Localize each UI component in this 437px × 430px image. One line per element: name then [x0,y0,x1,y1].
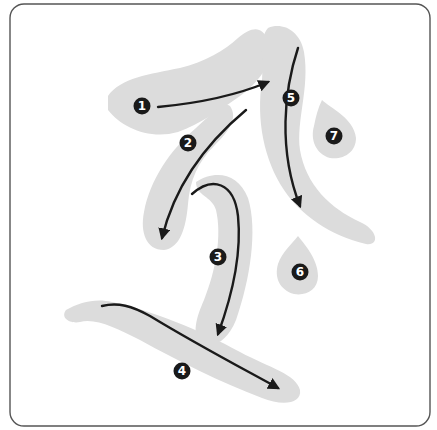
badge-stroke-1: 1 [134,98,151,115]
badge-stroke-3: 3 [210,249,227,266]
badge-stroke-4: 4 [174,363,191,380]
svg-text:5: 5 [287,91,295,105]
stroke-order-diagram: 1 2 3 4 5 6 7 [0,0,437,430]
badge-stroke-6: 6 [292,264,309,281]
badge-stroke-2: 2 [180,135,197,152]
svg-text:7: 7 [330,129,338,143]
svg-text:3: 3 [214,250,222,264]
svg-text:4: 4 [178,364,186,378]
badge-stroke-7: 7 [326,128,343,145]
svg-text:2: 2 [184,136,192,150]
svg-text:1: 1 [138,99,146,113]
svg-text:6: 6 [296,265,304,279]
badge-stroke-5: 5 [283,90,300,107]
